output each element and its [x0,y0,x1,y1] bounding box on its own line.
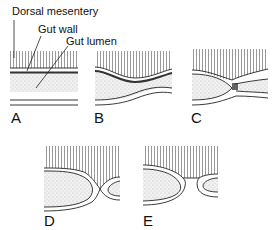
panel-label-c: C [191,110,202,125]
panel-d-drawing [44,146,120,211]
panel-b-drawing [95,51,172,105]
callout-dorsal-mesentery: Dorsal mesentery [12,6,98,17]
callout-gut-lumen: Gut lumen [66,36,117,47]
panel-c-drawing [192,49,268,105]
callout-gut-wall: Gut wall [38,24,78,35]
panel-e-drawing [143,146,218,205]
panel-label-a: A [11,110,21,125]
panel-label-d: D [44,213,55,228]
panel-label-b: B [94,110,104,125]
panel-label-e: E [143,213,153,228]
